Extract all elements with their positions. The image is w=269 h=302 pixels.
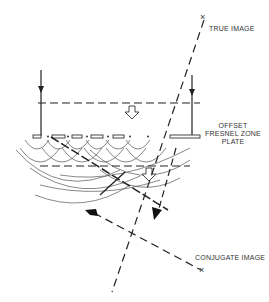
zone-plate (33, 135, 200, 138)
solid-arrow-icon (152, 207, 162, 220)
offset-plate-label-line-3: PLATE (198, 138, 268, 146)
true-image-marker: × (200, 13, 205, 21)
converging-ray (158, 148, 176, 212)
offset-plate-label-line-2: FRESNEL ZONE (198, 130, 268, 138)
diffracted-wavelets (16, 140, 190, 203)
conjugate-image-marker: × (199, 266, 204, 274)
true-image-label: TRUE IMAGE (209, 25, 255, 33)
solid-arrow-icon (85, 209, 98, 216)
down-arrow-icon (38, 86, 195, 96)
hollow-down-arrow-icon (125, 106, 139, 119)
true-image-ray (112, 20, 204, 292)
offset-plate-label: OFFSET FRESNEL ZONE PLATE (198, 122, 268, 146)
conjugate-image-ray (94, 213, 201, 270)
conjugate-image-label: CONJUGATE IMAGE (195, 254, 265, 262)
offset-plate-label-line-1: OFFSET (198, 122, 268, 130)
